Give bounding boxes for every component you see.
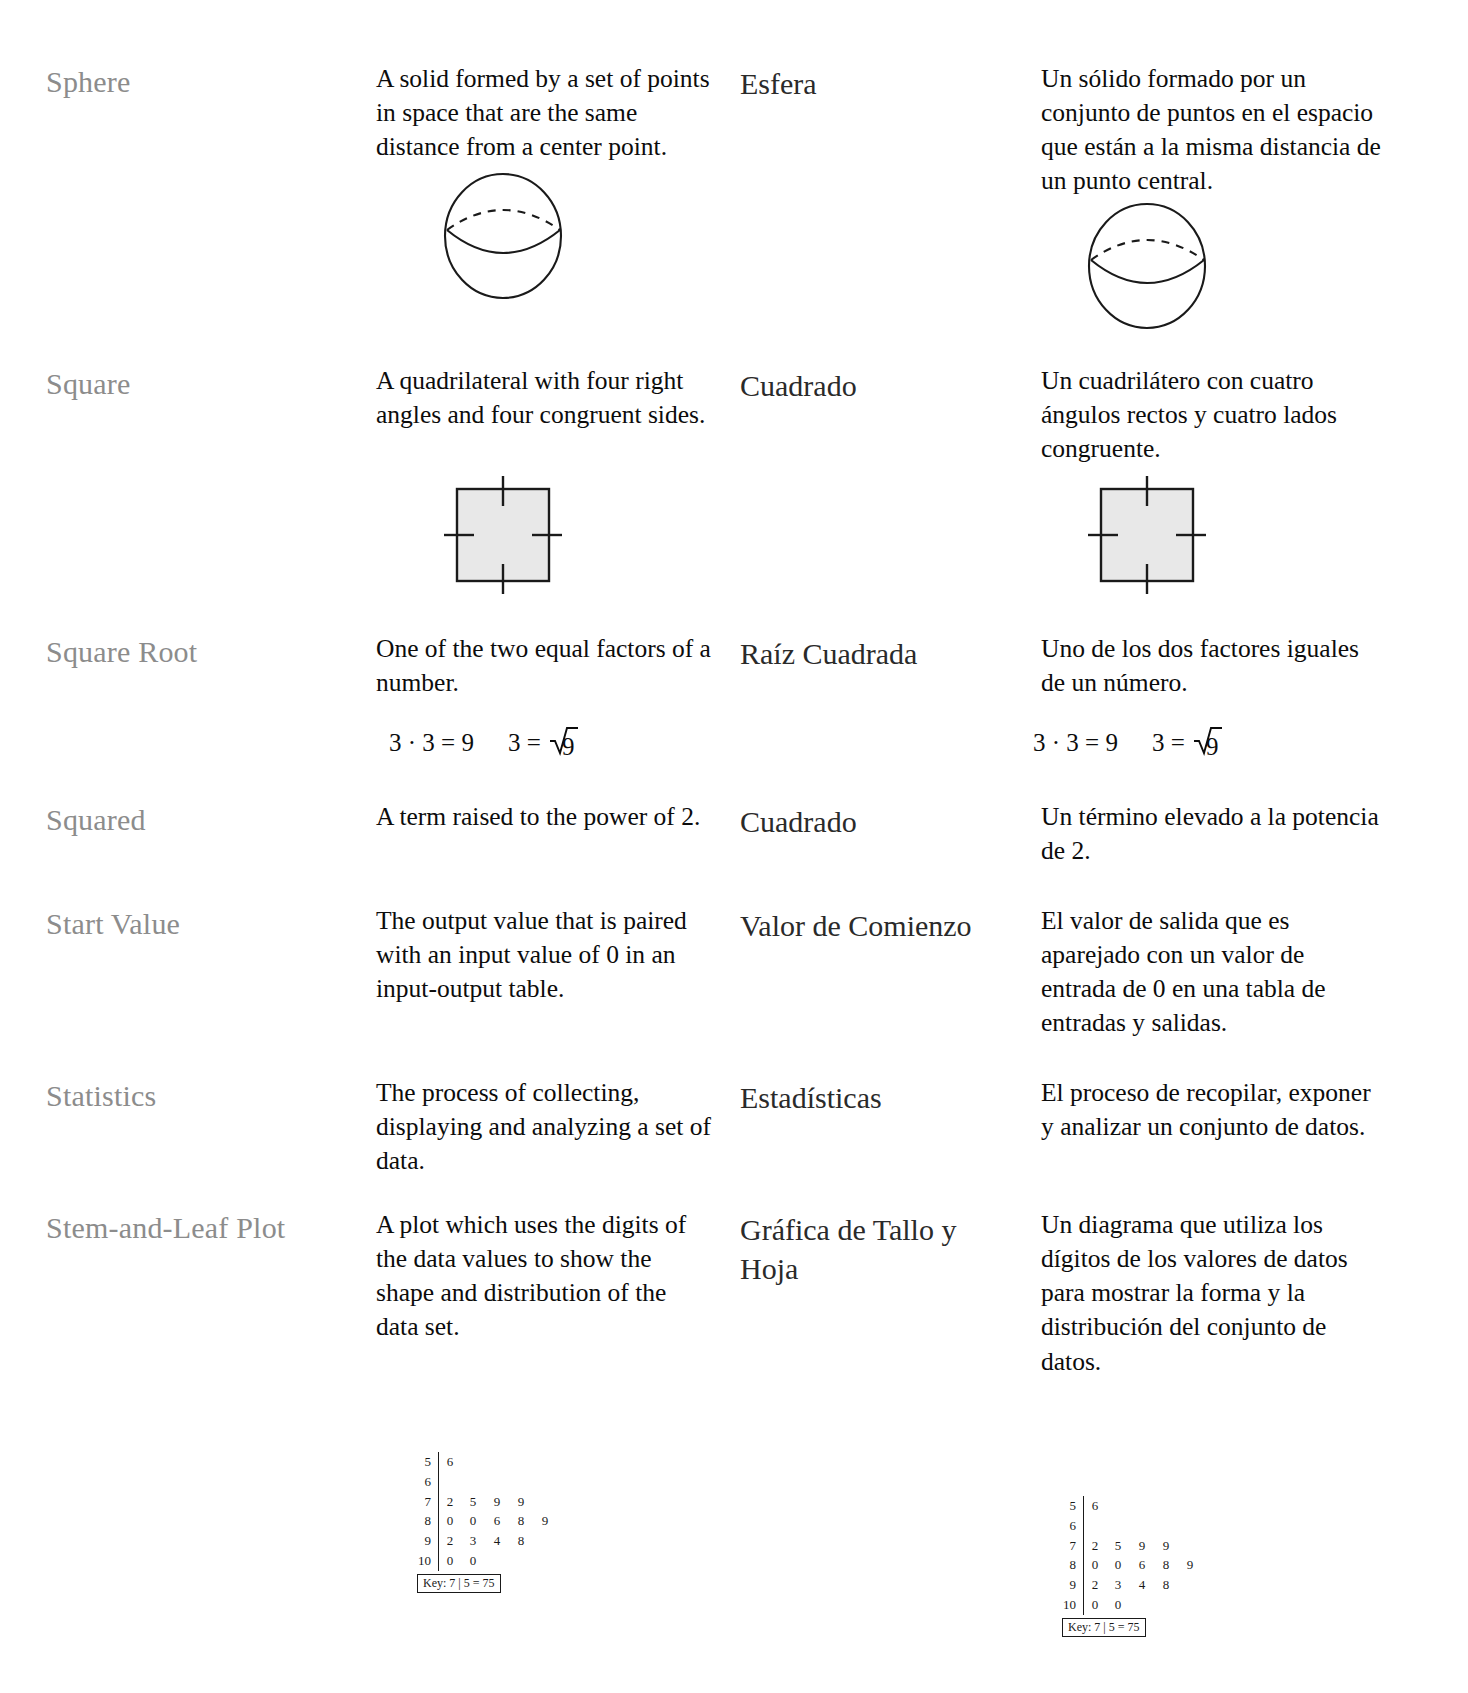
- term-english-statistics: Statistics: [46, 1076, 376, 1178]
- definition-spanish-estadisticas: El proceso de recopilar, exponer y anali…: [1041, 1076, 1401, 1178]
- definition-spanish-cuadrado: Un cuadrilátero con cuatro ángulos recto…: [1041, 364, 1401, 466]
- definition-english-statistics: The process of collecting, displaying an…: [376, 1076, 736, 1178]
- leaf-value: 0: [1106, 1555, 1130, 1575]
- leaf-value: 0: [461, 1551, 485, 1571]
- term-spanish-estadisticas: Estadísticas: [736, 1076, 1041, 1178]
- stem-value: 9: [1057, 1575, 1083, 1595]
- stem-value: 10: [412, 1551, 438, 1571]
- definition-english-square-root: One of the two equal factors of a number…: [376, 632, 736, 700]
- leaf-value: 2: [439, 1531, 461, 1551]
- leaf-value: 6: [485, 1511, 509, 1531]
- stem-leaf-divider: [1083, 1516, 1084, 1536]
- glossary-page: Sphere A solid formed by a set of points…: [0, 0, 1468, 1693]
- leaf-value: 0: [1084, 1555, 1106, 1575]
- square-diagram-spanish: [1080, 468, 1214, 602]
- equation-left-english: 3 · 3 = 9: [389, 729, 474, 756]
- stem-value: 9: [412, 1531, 438, 1551]
- stem-value: 7: [1057, 1536, 1083, 1556]
- leaf-value: 2: [1084, 1536, 1106, 1556]
- square-root-equation-spanish: 3 · 3 = 93 = 9: [1033, 726, 1223, 757]
- definition-spanish-esfera: Un sólido formado por un conjunto de pun…: [1041, 62, 1401, 199]
- leaf-value: 0: [439, 1511, 461, 1531]
- equation-left-spanish: 3 · 3 = 9: [1033, 729, 1118, 756]
- definition-spanish-cuadrado-2: Un término elevado a la potencia de 2.: [1041, 800, 1401, 868]
- term-spanish-valor-de-comienzo: Valor de Comienzo: [736, 904, 1041, 1041]
- leaf-value: 6: [1084, 1496, 1106, 1516]
- sphere-diagram-english: [443, 172, 569, 300]
- leaf-value: 8: [1154, 1575, 1178, 1595]
- stem-value: 6: [1057, 1516, 1083, 1536]
- term-english-stem-and-leaf-plot: Stem-and-Leaf Plot: [46, 1208, 376, 1379]
- glossary-entry-statistics: Statistics The process of collecting, di…: [46, 1076, 1446, 1178]
- radicand-english: 9: [562, 733, 575, 761]
- leaf-value: 2: [439, 1492, 461, 1512]
- definition-english-square: A quadrilateral with four right angles a…: [376, 364, 736, 466]
- leaf-value: 9: [485, 1492, 509, 1512]
- stem-value: 10: [1057, 1595, 1083, 1615]
- term-spanish-raiz-cuadrada: Raíz Cuadrada: [736, 632, 1041, 700]
- leaf-value: 0: [439, 1551, 461, 1571]
- leaf-value: 4: [1130, 1575, 1154, 1595]
- stem-leaf-divider: [438, 1472, 439, 1492]
- leaf-value: 0: [1084, 1595, 1106, 1615]
- term-spanish-grafica-de-tallo-y-hoja: Gráfica de Tallo y Hoja: [736, 1208, 1041, 1379]
- leaf-value: 9: [1130, 1536, 1154, 1556]
- definition-spanish-grafica-de-tallo-y-hoja: Un diagrama que utiliza los dígitos de l…: [1041, 1208, 1401, 1379]
- term-spanish-cuadrado: Cuadrado: [736, 364, 1041, 466]
- stem-value: 5: [412, 1452, 438, 1472]
- term-english-sphere: Sphere: [46, 62, 376, 199]
- leaf-value: 8: [1154, 1555, 1178, 1575]
- leaf-value: 0: [1106, 1595, 1130, 1615]
- stem-and-leaf-plot-english: 5 6 6 7 2 5 9 9 8 0 0 6 8: [412, 1452, 557, 1593]
- leaf-value: 8: [509, 1531, 533, 1551]
- glossary-entry-sphere: Sphere A solid formed by a set of points…: [46, 62, 1446, 199]
- leaf-value: 9: [533, 1511, 557, 1531]
- term-english-start-value: Start Value: [46, 904, 376, 1041]
- sphere-diagram-spanish: [1087, 202, 1213, 330]
- leaf-value: 8: [509, 1511, 533, 1531]
- square-diagram-english: [436, 468, 570, 602]
- term-spanish-cuadrado-2: Cuadrado: [736, 800, 1041, 868]
- stem-and-leaf-key: Key: 7 | 5 = 75: [1062, 1618, 1146, 1637]
- definition-english-squared: A term raised to the power of 2.: [376, 800, 736, 868]
- term-english-square-root: Square Root: [46, 632, 376, 700]
- leaf-value: 9: [1154, 1536, 1178, 1556]
- term-spanish-esfera: Esfera: [736, 62, 1041, 199]
- leaf-value: 9: [1178, 1555, 1202, 1575]
- term-english-square: Square: [46, 364, 376, 466]
- stem-value: 5: [1057, 1496, 1083, 1516]
- leaf-value: 3: [461, 1531, 485, 1551]
- definition-spanish-raiz-cuadrada: Uno de los dos factores iguales de un nú…: [1041, 632, 1401, 700]
- stem-value: 8: [412, 1511, 438, 1531]
- glossary-entry-stem-and-leaf-plot: Stem-and-Leaf Plot A plot which uses the…: [46, 1208, 1446, 1379]
- glossary-entry-start-value: Start Value The output value that is pai…: [46, 904, 1446, 1041]
- leaf-value: 4: [485, 1531, 509, 1551]
- leaf-value: 2: [1084, 1575, 1106, 1595]
- leaf-value: 5: [1106, 1536, 1130, 1556]
- term-english-squared: Squared: [46, 800, 376, 868]
- leaf-value: 0: [461, 1511, 485, 1531]
- leaf-value: 3: [1106, 1575, 1130, 1595]
- definition-english-start-value: The output value that is paired with an …: [376, 904, 736, 1041]
- leaf-value: 6: [1130, 1555, 1154, 1575]
- glossary-entry-squared: Squared A term raised to the power of 2.…: [46, 800, 1446, 868]
- square-root-equation-english: 3 · 3 = 93 = 9: [389, 726, 579, 757]
- definition-english-stem-and-leaf-plot: A plot which uses the digits of the data…: [376, 1208, 736, 1379]
- leaf-value: 9: [509, 1492, 533, 1512]
- stem-value: 7: [412, 1492, 438, 1512]
- stem-and-leaf-plot-spanish: 5 6 6 7 2 5 9 9 8 0 0 6 8: [1057, 1496, 1202, 1637]
- stem-and-leaf-grid: 5 6 6 7 2 5 9 9 8 0 0 6 8: [1057, 1496, 1202, 1615]
- stem-and-leaf-key: Key: 7 | 5 = 75: [417, 1574, 501, 1593]
- equation-right-prefix-english: 3 =: [508, 729, 547, 756]
- radical-sign-english: 9: [547, 726, 579, 757]
- radical-sign-spanish: 9: [1191, 726, 1223, 757]
- glossary-entry-square-root: Square Root One of the two equal factors…: [46, 632, 1446, 700]
- glossary-entry-square: Square A quadrilateral with four right a…: [46, 364, 1446, 466]
- stem-and-leaf-grid: 5 6 6 7 2 5 9 9 8 0 0 6 8: [412, 1452, 557, 1571]
- stem-value: 8: [1057, 1555, 1083, 1575]
- definition-spanish-valor-de-comienzo: El valor de salida que es aparejado con …: [1041, 904, 1401, 1041]
- stem-value: 6: [412, 1472, 438, 1492]
- leaf-value: 5: [461, 1492, 485, 1512]
- leaf-value: 6: [439, 1452, 461, 1472]
- equation-right-prefix-spanish: 3 =: [1152, 729, 1191, 756]
